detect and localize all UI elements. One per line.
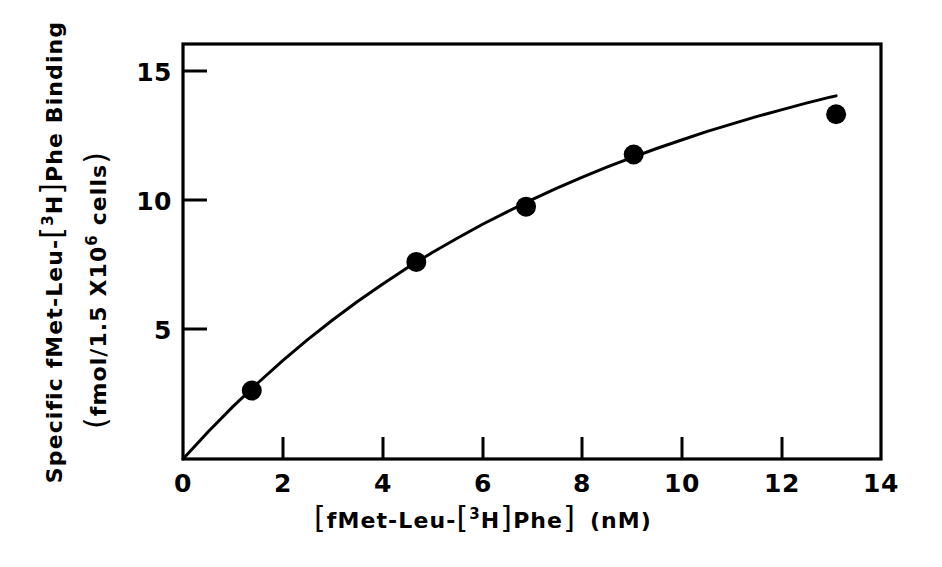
y-title1-inner-close: ]	[34, 182, 69, 195]
x-tick-label-6: 6	[474, 469, 492, 498]
x-tick-label-2: 2	[274, 469, 292, 498]
x-title-isotope: H	[481, 508, 501, 533]
x-tick-label-4: 4	[374, 469, 392, 498]
y-title1-inner-open: [	[34, 226, 69, 239]
plot-frame	[183, 44, 881, 459]
x-axis-title: [fMet-Leu-[3H]Phe](nM)	[314, 500, 652, 535]
binding-curve-chart: 15 10 5 0 2 4 6 8 10 12 14 [fMet-Leu-[3H…	[0, 0, 942, 567]
svg-text:Specific fMet-Leu-[3H]Phe Bind: Specific fMet-Leu-[3H]Phe Binding	[34, 21, 69, 483]
x-tick-label-10: 10	[664, 469, 700, 498]
x-title-bracket-close: ]	[563, 500, 576, 535]
y-title2-exponent-superscript: 6	[83, 234, 101, 246]
svg-text:[fMet-Leu-[3H]Phe](nM): [fMet-Leu-[3H]Phe](nM)	[314, 500, 652, 535]
x-tick-label-0: 0	[174, 469, 192, 498]
figure-root: 15 10 5 0 2 4 6 8 10 12 14 [fMet-Leu-[3H…	[0, 0, 942, 567]
x-tick-label-12: 12	[764, 469, 800, 498]
x-tick-label-8: 8	[573, 469, 591, 498]
x-title-units: (nM)	[590, 508, 652, 533]
y-axis-title-line1: Specific fMet-Leu-[3H]Phe Binding	[34, 21, 69, 483]
data-point	[242, 381, 262, 401]
fit-curve	[183, 96, 836, 459]
y-tick-label-10: 10	[136, 187, 172, 216]
y-title1-post: Phe Binding	[42, 21, 67, 182]
y-tick-label-5: 5	[154, 316, 172, 345]
y-axis-title-line2: (fmol/1.5 X106 cells)	[78, 151, 113, 429]
y-title2-post: cells	[86, 164, 111, 234]
x-title-isotope-superscript: 3	[469, 505, 481, 523]
x-title-inner-close: ]	[500, 500, 513, 535]
y-tick-label-15: 15	[136, 58, 172, 87]
x-tick-labels: 0 2 4 6 8 10 12 14	[174, 469, 899, 498]
x-title-bracket-open: [	[314, 500, 327, 535]
x-tick-label-14: 14	[863, 469, 899, 498]
x-title-pre: fMet-Leu-	[327, 508, 457, 533]
y-title1-isotope-superscript: 3	[39, 214, 57, 226]
x-tick-marks	[283, 437, 782, 459]
x-title-inner-open: [	[456, 500, 469, 535]
data-point	[406, 252, 426, 272]
x-title-post: Phe	[513, 508, 563, 533]
y-title2-close: )	[78, 151, 113, 164]
y-title1-pre: Specific fMet-Leu-	[42, 239, 67, 483]
y-tick-marks	[183, 71, 207, 329]
y-title1-isotope: H	[42, 195, 67, 215]
data-point	[826, 104, 846, 124]
data-point	[516, 197, 536, 217]
y-title2-open: (	[78, 416, 113, 429]
data-point	[624, 144, 644, 164]
data-point-group	[242, 104, 846, 400]
y-title2-pre: fmol/1.5 X10	[86, 246, 111, 417]
y-tick-labels: 15 10 5	[136, 58, 172, 345]
svg-text:(fmol/1.5 X106 cells): (fmol/1.5 X106 cells)	[78, 151, 113, 429]
